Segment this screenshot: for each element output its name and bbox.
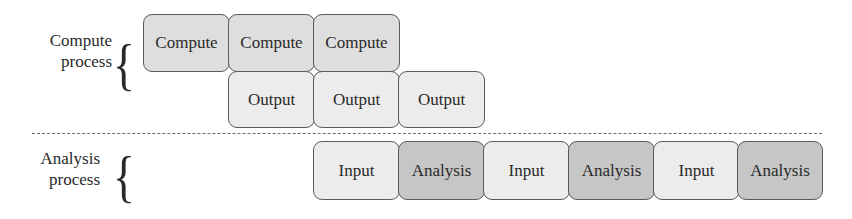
compute-label-line1: Compute xyxy=(40,30,112,51)
input-box-2: Input xyxy=(483,141,570,200)
input-box-1: Input xyxy=(313,141,400,200)
compute-box-3: Compute xyxy=(313,14,400,72)
input-box-3: Input xyxy=(653,141,740,200)
compute-box-2: Compute xyxy=(228,14,315,72)
analysis-box-2: Analysis xyxy=(568,141,655,200)
analysis-label-line1: Analysis xyxy=(28,148,100,169)
output-box-1: Output xyxy=(228,71,315,128)
analysis-brace-icon: { xyxy=(113,148,135,206)
output-box-2: Output xyxy=(313,71,400,128)
compute-box-1: Compute xyxy=(143,14,230,72)
output-box-3: Output xyxy=(398,71,485,128)
analysis-box-1: Analysis xyxy=(398,141,485,200)
compute-label-line2: process xyxy=(40,51,112,72)
analysis-process-label: Analysis process xyxy=(28,148,100,190)
analysis-box-3: Analysis xyxy=(737,141,823,200)
process-divider xyxy=(32,133,822,134)
compute-brace-icon: { xyxy=(113,36,135,94)
analysis-label-line2: process xyxy=(28,169,100,190)
compute-process-label: Compute process xyxy=(40,30,112,72)
